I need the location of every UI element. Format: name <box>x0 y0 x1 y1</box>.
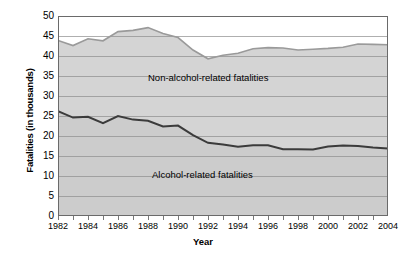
y-tick-label: 20 <box>22 131 54 141</box>
series-label-alcohol: Alcohol-related fatalities <box>152 169 253 180</box>
x-tick-label: 1998 <box>288 222 308 231</box>
y-tick-label: 10 <box>22 171 54 181</box>
x-tick-label: 1992 <box>198 222 218 231</box>
x-tick-label: 1984 <box>78 222 98 231</box>
x-tick-label: 1994 <box>228 222 248 231</box>
y-tick-label: 30 <box>22 91 54 101</box>
x-tick-label: 1986 <box>108 222 128 231</box>
series-label-non-alcohol: Non-alcohol-related fatalities <box>148 72 268 83</box>
plot-area <box>58 16 388 216</box>
y-tick-label: 35 <box>22 71 54 81</box>
y-tick-label: 40 <box>22 51 54 61</box>
x-axis-tick-labels: 1982198419861988199019921994199619982000… <box>0 218 406 234</box>
x-tick-label: 1982 <box>48 222 68 231</box>
x-tick-label: 1988 <box>138 222 158 231</box>
y-tick-label: 50 <box>22 11 54 21</box>
y-tick-label: 25 <box>22 111 54 121</box>
x-tick-label: 2002 <box>348 222 368 231</box>
x-tick-label: 1990 <box>168 222 188 231</box>
chart-svg <box>58 16 388 216</box>
x-tick-label: 1996 <box>258 222 278 231</box>
x-axis-title: Year <box>0 236 406 247</box>
y-tick-label: 45 <box>22 31 54 41</box>
y-tick-label: 15 <box>22 151 54 161</box>
x-tick-label: 2004 <box>378 222 398 231</box>
chart-figure: Fatalities (in thousands) 05101520253035… <box>0 0 406 270</box>
x-tick-label: 2000 <box>318 222 338 231</box>
y-tick-label: 5 <box>22 191 54 201</box>
